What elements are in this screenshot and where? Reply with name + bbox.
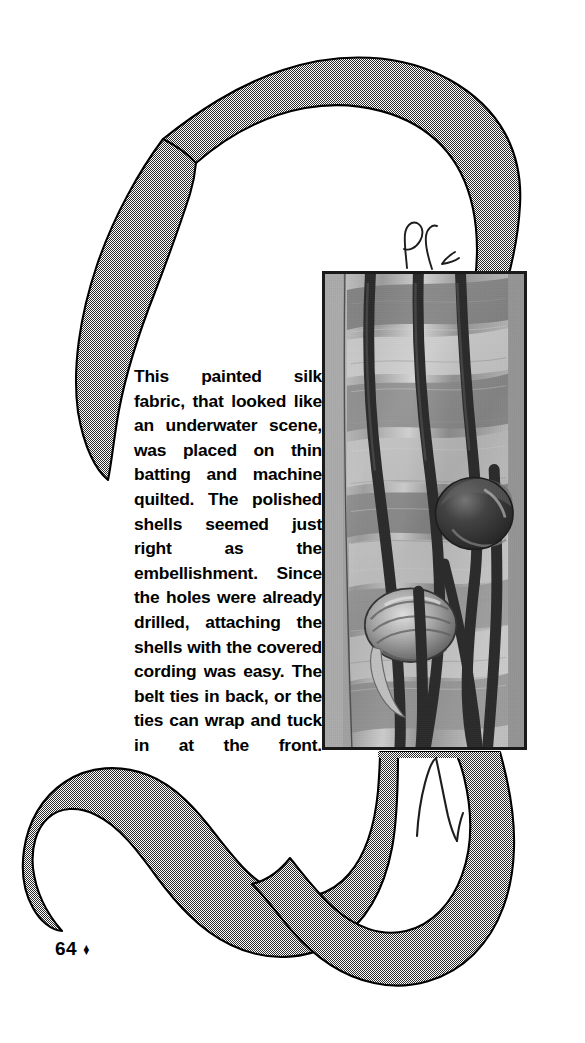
ribbon-photo-underpass <box>378 752 500 758</box>
book-page: This painted silk fabric, that looked li… <box>0 0 585 1043</box>
folio-diamond-icon: ♦ <box>83 940 90 960</box>
hand-drawn-arrow <box>417 758 463 841</box>
ribbon-lower <box>23 752 398 957</box>
hand-drawn-tie-curls <box>404 223 459 269</box>
caption-paragraph: This painted silk fabric, that looked li… <box>134 364 322 782</box>
belt-photograph <box>322 271 527 750</box>
photo-image <box>325 274 524 747</box>
page-folio: 64♦ <box>55 938 91 960</box>
page-number: 64 <box>55 938 77 959</box>
ribbon-lower-right-lobe <box>252 752 514 986</box>
